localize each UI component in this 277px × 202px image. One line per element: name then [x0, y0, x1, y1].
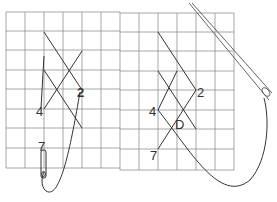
right-stitches — [158, 32, 267, 186]
left-grid — [6, 12, 120, 170]
stitch-diagram: 2 4 7 2 4 D 7 — [0, 0, 277, 202]
label-4: 4 — [149, 104, 156, 119]
label-2: 2 — [77, 85, 84, 100]
label-7: 7 — [150, 148, 157, 163]
label-4: 4 — [36, 104, 43, 119]
label-2: 2 — [197, 85, 204, 100]
label-7: 7 — [38, 139, 45, 154]
label-d: D — [175, 117, 184, 132]
